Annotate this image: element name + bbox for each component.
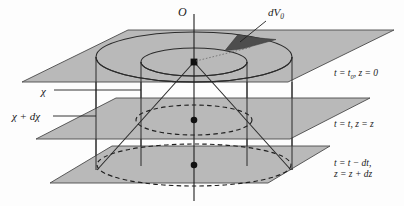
plane-bottom-label: t = t − dt, z = z + dz	[334, 158, 372, 180]
apex-dot	[191, 59, 198, 66]
plane-middle-label: t = t, z = z	[334, 119, 374, 130]
plane-middle-time: t = t	[334, 119, 350, 129]
origin-label: O	[178, 6, 187, 20]
chi-plus-dchi-label: χ + dχ	[12, 110, 40, 123]
volume-element-symbol: dV	[268, 6, 280, 18]
chi-label: χ	[41, 85, 46, 98]
volume-element-label: dV0	[268, 6, 284, 22]
plane-bottom-line1: t = t − dt,	[334, 158, 371, 168]
plane-top-label: t = t0, z = 0	[334, 68, 378, 80]
plane-bottom-line2: z = z + dz	[334, 169, 372, 179]
plane-top-time: t = t	[334, 68, 350, 78]
plane-bottom-group	[50, 144, 330, 186]
plane-middle-group	[36, 98, 370, 139]
physics-diagram-canvas: O dV0 χ χ + dχ t = t0, z = 0 t = t, z = …	[0, 0, 404, 206]
volume-element-subscript: 0	[280, 12, 284, 21]
middle-center-dot	[191, 117, 198, 124]
plane-middle-coord: , z = z	[350, 119, 373, 129]
bottom-center-dot	[191, 162, 198, 169]
plane-middle-surface	[36, 98, 370, 139]
plane-bottom-surface	[50, 146, 330, 183]
plane-top-coord: , z = 0	[354, 68, 378, 78]
